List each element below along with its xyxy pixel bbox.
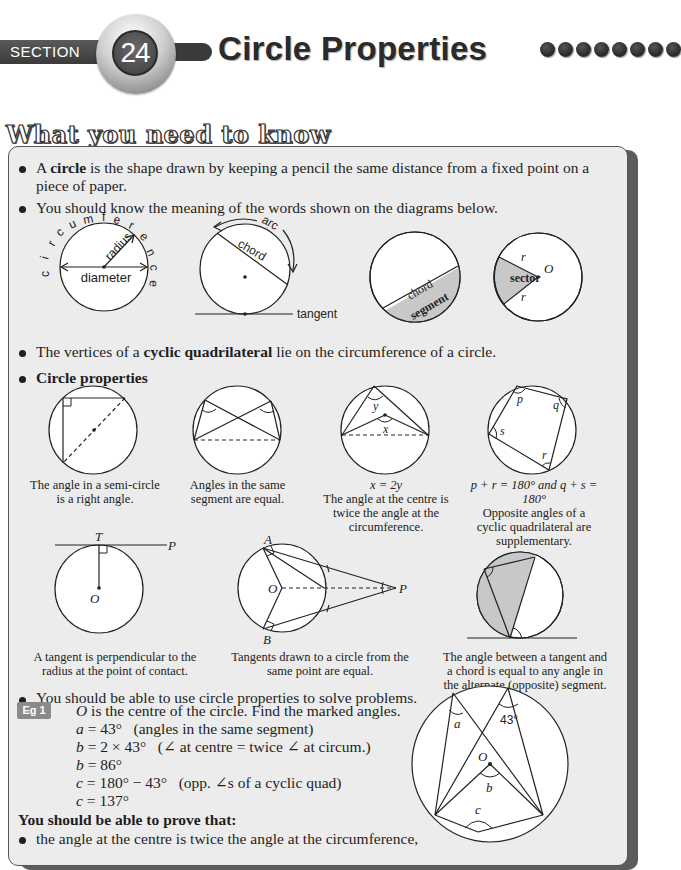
dot-icon <box>540 42 555 57</box>
label-O: O <box>478 749 488 764</box>
label-x: x <box>382 422 389 436</box>
caption-line: cyclic quadrilateral are <box>460 520 608 534</box>
prove-heading: You should be able to prove that: <box>18 811 236 829</box>
label-a: a <box>454 716 461 731</box>
caption-line: is a right angle. <box>30 492 160 506</box>
var: b <box>76 738 84 755</box>
caption-line: The angle in a semi-circle <box>30 478 160 492</box>
caption-semicircle: The angle in a semi-circle is a right an… <box>30 478 160 506</box>
label-b: b <box>486 780 493 795</box>
var: c <box>76 774 83 791</box>
label-O: O <box>90 591 100 606</box>
working-line: c = 180° − 43° (opp. ∠s of a cyclic quad… <box>76 774 341 792</box>
diagram-tangent-perpendicular: T P O <box>55 540 190 640</box>
bullet-icon <box>19 837 26 844</box>
var: b <box>76 756 84 773</box>
label-centre-O: O <box>544 261 554 276</box>
caption-line: segment are equal. <box>175 492 300 506</box>
caption-line: The angle between a tangent and <box>440 650 610 664</box>
label-r: r <box>542 448 547 462</box>
term-circle: circle <box>50 159 86 176</box>
caption-same-segment: Angles in the same segment are equal. <box>175 478 300 506</box>
label-s: s <box>500 424 505 438</box>
label-tangent: tangent <box>297 307 338 321</box>
dot-icon <box>648 42 663 57</box>
text-fragment: The vertices of a <box>36 343 144 360</box>
label-P: P <box>167 538 176 553</box>
label-B: B <box>263 632 271 647</box>
cyclic-quad-text: The vertices of a cyclic quadrilateral l… <box>36 343 496 361</box>
formula: x = 2y <box>316 478 456 492</box>
label-O: O <box>268 581 278 596</box>
variable-O: O <box>76 702 87 719</box>
caption-line: Angles in the same <box>175 478 300 492</box>
text-fragment: A <box>36 159 50 176</box>
label-p: p <box>516 392 523 406</box>
label-T: T <box>95 529 103 544</box>
label-radius-r: r <box>521 250 526 264</box>
diagram-alternate-segment <box>467 550 582 640</box>
working-line: b = 2 × 43° (∠ at centre = twice ∠ at ci… <box>76 738 371 756</box>
diagram-tangents-equal: A B O P <box>238 535 408 645</box>
caption-line: twice the angle at the <box>316 506 456 520</box>
caption-cyclic-quadrilateral: p + r = 180° and q + s = 180° Opposite a… <box>460 478 608 548</box>
diagram-cyclic-quadrilateral: p q r s <box>487 385 579 475</box>
label-q: q <box>553 398 559 412</box>
value: = 43° <box>84 720 122 737</box>
caption-line: Tangents drawn to a circle from the <box>225 650 415 664</box>
prove-item: the angle at the centre is twice the ang… <box>36 830 418 848</box>
diagram-arc-chord-tangent: arc chord tangent <box>195 225 365 320</box>
caption-line: Opposite angles of a <box>460 506 608 520</box>
formula: p + r = 180° and q + s = 180° <box>460 478 608 506</box>
diagram-segment: chord segment <box>368 235 468 325</box>
svg-text:c: c <box>38 271 52 277</box>
caption-tangents-equal: Tangents drawn to a circle from the same… <box>225 650 415 678</box>
working-line: a = 43° (angles in the same segment) <box>76 720 314 738</box>
svg-text:c: c <box>147 264 161 271</box>
page-title: Circle Properties <box>218 30 487 68</box>
caption-line: The angle at the centre is <box>316 492 456 506</box>
subheading: What you need to know <box>6 120 331 149</box>
caption-line: A tangent is perpendicular to the <box>30 650 200 664</box>
question-text: is the centre of the circle. Find the ma… <box>87 702 400 719</box>
caption-angle-at-centre: x = 2y The angle at the centre is twice … <box>316 478 456 534</box>
circle-definition: A circle is the shape drawn by keeping a… <box>36 159 589 177</box>
caption-line: circumference. <box>316 520 456 534</box>
caption-line: same point are equal. <box>225 664 415 678</box>
caption-line: supplementary. <box>460 534 608 548</box>
reason: (opp. ∠s of a cyclic quad) <box>179 774 342 791</box>
diagram-angles-same-segment <box>192 385 284 475</box>
label-43-degrees: 43° <box>500 713 518 727</box>
working-line: c = 137° <box>76 792 129 810</box>
text-fragment: is the shape drawn by keeping a pencil t… <box>86 159 589 176</box>
dot-icon <box>558 42 573 57</box>
text-fragment: lie on the circumference of a circle. <box>272 343 496 360</box>
label-y: y <box>372 399 379 413</box>
working-line: b = 86° <box>76 756 122 774</box>
section-header: SECTION 24 Circle Properties <box>0 0 673 100</box>
diagram-sector: sector O r r <box>496 235 596 325</box>
value: = 137° <box>83 792 129 809</box>
label-P: P <box>398 581 407 596</box>
label-A: A <box>263 532 272 547</box>
svg-text:n: n <box>143 246 159 258</box>
decorative-dots <box>540 42 681 57</box>
svg-text:e: e <box>146 280 161 288</box>
example-question: O is the centre of the circle. Find the … <box>76 702 401 720</box>
svg-text:c: c <box>53 225 67 240</box>
diagram-circumference: diameter radius c i r c u m f e r e n c … <box>40 225 170 315</box>
value: = 180° − 43° <box>83 774 167 791</box>
diagram-semicircle-right-angle <box>48 385 140 475</box>
bullet-icon <box>19 166 26 173</box>
dot-icon <box>576 42 591 57</box>
svg-text:r: r <box>44 238 58 248</box>
circle-definition-line2: piece of paper. <box>36 177 127 195</box>
value: = 86° <box>84 756 122 773</box>
label-radius-r: r <box>521 290 526 304</box>
bullet-icon <box>19 206 26 213</box>
bullet-icon <box>19 350 26 357</box>
caption-line: radius at the point of contact. <box>30 664 200 678</box>
reason: (∠ at centre = twice ∠ at circum.) <box>158 738 371 755</box>
section-number: 24 <box>112 30 158 76</box>
diagram-example-circle: a 43° O b c <box>412 686 572 846</box>
